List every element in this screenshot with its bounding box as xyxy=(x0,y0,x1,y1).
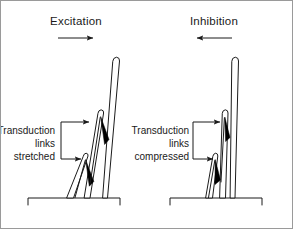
heading-inhibition: Inhibition xyxy=(190,15,238,27)
panel-excitation: Excitation xyxy=(1,15,120,205)
caption-line3-left: stretched xyxy=(14,151,55,162)
cuticular-plate-right xyxy=(170,198,262,205)
caption-line2-left: links xyxy=(35,138,55,149)
panel-inhibition: Inhibition xyxy=(132,15,262,205)
cuticular-plate-left xyxy=(28,198,120,205)
caption-line3-right: compressed xyxy=(135,151,189,162)
caption-line2-right: links xyxy=(169,138,189,149)
heading-excitation: Excitation xyxy=(50,15,102,27)
caption-line1-right: Transduction xyxy=(132,125,189,136)
stereocilium-short-left xyxy=(67,153,88,198)
stereocilium-tall-left xyxy=(103,57,120,198)
stereocilium-tall-right xyxy=(231,57,239,198)
figure-canvas: Excitation xyxy=(1,1,292,228)
hair-cell-transduction-figure: Excitation xyxy=(0,0,293,229)
transduction-link-lower-right xyxy=(215,160,221,185)
caption-line1-left: Transduction xyxy=(1,125,55,136)
